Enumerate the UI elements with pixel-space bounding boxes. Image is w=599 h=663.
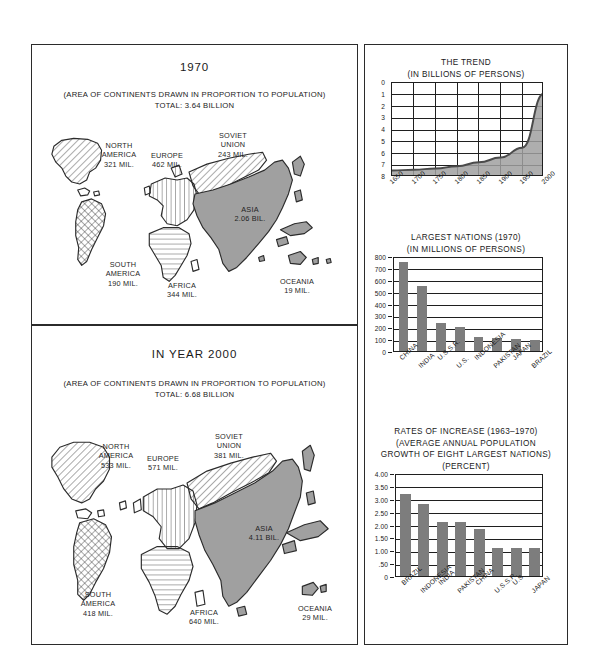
nations-subtitle: (IN MILLIONS OF PERSONS) [365,244,567,256]
trend-ytick-label: 0 [365,79,385,86]
rates-ytick-mark [390,577,394,578]
region-australia-2000 [302,582,318,595]
nations-xtick-label: U.S. [455,355,470,369]
rates-plot [395,474,543,577]
nations-ytick-mark [388,281,392,282]
rates-plot-area: 4.003.503.002.502.001.501.00.500BRAZILIN… [365,472,567,612]
rates-bar [455,522,466,576]
rates-subtitle3: (PERCENT) [365,461,567,473]
region-madagascar-2000 [195,590,205,606]
charts-panel: THE TREND (IN BILLIONS OF PERSONS) 01234… [364,44,568,645]
nations-ytick-label: 300 [365,313,386,320]
nations-plot-area: 8007006005004003002001000CHINAINDIAU.S.S… [365,255,567,385]
trend-ytick-label: 7 [365,161,385,168]
map-2000-label-south-america: SOUTH AMERICA 418 MIL. [62,590,134,618]
rates-ytick-mark [390,538,394,539]
rates-subtitle2: GROWTH OF EIGHT LARGEST NATIONS) [365,449,567,461]
region-nz-2000 [320,584,326,592]
region-central-america-2000 [76,509,92,519]
rates-ytick-label: 2.00 [365,522,388,529]
region-madagascar-1970 [191,259,199,271]
region-caribbean-2000 [98,510,105,517]
trend-ytick-label: 8 [365,173,385,180]
nations-gridline [394,269,542,270]
nations-ytick-mark [388,305,392,306]
rates-ytick-label: 4.00 [365,471,388,478]
rates-bar [400,494,411,576]
region-india-tip-2000 [237,606,247,616]
nations-ytick-label: 700 [365,265,386,272]
region-iceland-2000 [119,501,126,510]
rates-ytick-label: 0 [365,574,388,581]
rates-ytick-mark [390,551,394,552]
rates-ytick-mark [390,474,394,475]
rates-ytick-label: 3.00 [365,496,388,503]
rates-ytick-label: 2.50 [365,509,388,516]
map-1970-label-africa: AFRICA 344 MIL. [150,281,214,300]
rates-ytick-label: 3.50 [365,483,388,490]
trend-ytick-label: 6 [365,149,385,156]
nations-ytick-label: 200 [365,325,386,332]
chart-largest-nations: LARGEST NATIONS (1970) (IN MILLIONS OF P… [365,232,567,385]
map-2000-label-europe: EUROPE 571 MIL. [132,454,194,473]
nations-ytick-mark [388,293,392,294]
trend-ytick-label: 5 [365,137,385,144]
region-pacific-isle-1970 [326,258,331,263]
trend-subtitle: (IN BILLIONS OF PERSONS) [365,69,567,81]
region-indonesia-1970 [280,222,312,236]
chart-rates-of-increase: RATES OF INCREASE (1963–1970) (AVERAGE A… [365,426,567,612]
map-1970-label-south-america: SOUTH AMERICA 190 MIL. [88,260,158,288]
nations-xtick-label: INDIA [417,351,436,369]
nations-gridline [394,281,542,282]
rates-bar [529,548,540,576]
region-europe-1970 [149,178,197,226]
map-2000-label-oceania: OCEANIA 29 MIL. [282,604,348,623]
map-1970-label-europe: EUROPE 462 MIL. [136,151,198,170]
nations-ytick-label: 600 [365,277,386,284]
nations-ytick-mark [388,352,392,353]
region-british-isles-2000 [133,499,141,513]
trend-ytick-label: 4 [365,126,385,133]
rates-ytick-mark [390,564,394,565]
nations-ytick-label: 400 [365,301,386,308]
rates-xtick-label: JAPAN [530,574,551,594]
trend-plot [391,82,543,176]
trend-plot-area: 0123456781650170017501800185019001950200… [365,80,567,210]
nations-ytick-mark [388,269,392,270]
nations-bar [399,262,409,351]
rates-ytick-label: 1.50 [365,535,388,542]
rates-ytick-mark [390,526,394,527]
trend-ytick-label: 1 [365,90,385,97]
region-central-america-1970 [78,188,90,196]
trend-ytick-label: 2 [365,102,385,109]
nations-ytick-mark [388,340,392,341]
trend-title: THE TREND [365,57,567,69]
rates-gridline [396,500,542,501]
region-caribbean-1970 [94,191,100,196]
chart-the-trend: THE TREND (IN BILLIONS OF PERSONS) 01234… [365,57,567,210]
trend-curve [392,83,543,176]
region-british-isles-1970 [144,186,150,195]
map-2000-label-soviet-union: SOVIET UNION 381 MIL. [196,432,262,460]
map-1970-label-oceania: OCEANIA 19 MIL. [264,277,330,296]
trend-ytick-label: 3 [365,114,385,121]
rates-subtitle: (AVERAGE ANNUAL POPULATION [365,438,567,450]
rates-ytick-mark [390,513,394,514]
map-panel-2000: IN YEAR 2000 (AREA OF CONTINENTS DRAWN I… [31,325,358,645]
region-japan-2000 [302,445,314,471]
nations-plot [393,257,543,352]
region-nz-1970 [312,257,318,264]
region-philippines-2000 [306,491,315,505]
region-philippines-1970 [294,190,302,202]
rates-ytick-label: .50 [365,561,388,568]
map-2000-label-asia: ASIA 4.11 BIL. [232,524,296,543]
rates-ytick-mark [390,500,394,501]
rates-title: RATES OF INCREASE (1963–1970) [365,426,567,438]
map-2000-label-africa: AFRICA 640 MIL. [172,608,236,627]
nations-ytick-label: 500 [365,289,386,296]
region-africa-2000 [141,547,193,615]
nations-ytick-label: 0 [365,349,386,356]
rates-ytick-mark [390,487,394,488]
region-south-america-2000 [74,519,112,600]
nations-ytick-label: 100 [365,337,386,344]
